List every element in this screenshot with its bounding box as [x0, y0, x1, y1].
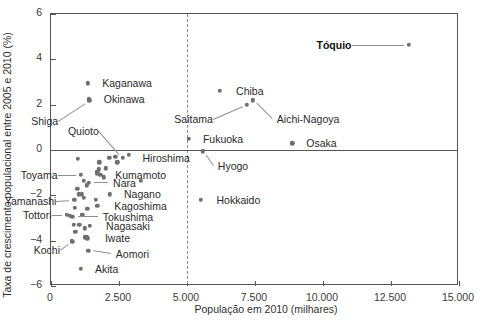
y-axis-tick-label: −4 — [2, 233, 42, 245]
plot-area: TóquioChibaKaganawaOkinawaShigaSaitamaAi… — [50, 13, 458, 285]
data-point — [97, 160, 101, 164]
data-point-label: Nagasaki — [106, 220, 150, 232]
y-axis-tick — [51, 286, 56, 287]
data-point — [115, 160, 119, 164]
data-point-label: Tottori — [23, 209, 52, 221]
label-leader-line — [206, 155, 214, 166]
data-point — [85, 207, 89, 211]
label-leader-line — [352, 45, 404, 46]
y-axis-title-text: Taxa de crescimento populacional entre 2… — [1, 32, 13, 298]
data-point — [73, 206, 77, 210]
x-axis-tick-label: 12.500 — [374, 291, 406, 303]
reference-line-zero — [51, 150, 457, 151]
data-point-label: Fukuoka — [203, 133, 243, 145]
data-point — [87, 98, 91, 102]
y-axis-tick-label: −2 — [2, 187, 42, 199]
y-axis-tick — [51, 14, 56, 15]
data-point — [78, 267, 82, 271]
x-axis-title: População em 2010 (milhares) — [0, 303, 486, 315]
label-leader-line — [52, 215, 62, 216]
label-leader-line — [213, 107, 243, 121]
data-point-label: Iwate — [105, 232, 130, 244]
data-point-label: Osaka — [306, 137, 336, 149]
data-point-label: Nara — [113, 177, 136, 189]
x-axis-tick-label: 5.000 — [173, 291, 199, 303]
reference-line-vertical — [187, 14, 188, 284]
y-axis-tick-label: 6 — [2, 6, 42, 18]
data-point-label: Tóquio — [317, 39, 352, 51]
label-leader-line — [256, 103, 272, 119]
x-axis-tick-label: 2.500 — [105, 291, 131, 303]
x-axis-tick — [51, 281, 52, 286]
x-axis-tick-label: 7.500 — [241, 291, 267, 303]
data-point-label: Saitama — [174, 113, 213, 125]
data-point-label: Akita — [95, 263, 118, 275]
data-point-label: Hiroshima — [142, 152, 189, 164]
data-point — [70, 215, 74, 219]
data-point — [75, 186, 79, 190]
x-axis-tick — [323, 281, 324, 286]
label-leader-line — [58, 175, 76, 176]
data-point — [290, 141, 294, 145]
y-axis-tick — [51, 59, 56, 60]
y-axis-tick — [51, 105, 56, 106]
data-point — [77, 223, 81, 227]
data-point — [82, 195, 86, 199]
label-leader-line — [60, 244, 68, 251]
x-axis-tick — [391, 281, 392, 286]
data-point-label: Shiga — [31, 115, 58, 127]
data-point-label: Aichi-Nagoya — [277, 113, 339, 125]
data-point-label: Quioto — [68, 125, 99, 137]
data-point — [218, 89, 222, 93]
data-point — [102, 175, 106, 179]
data-point-label: Kochi — [34, 244, 60, 256]
y-axis-tick — [51, 241, 56, 242]
x-axis-tick-label: 15.000 — [442, 291, 474, 303]
data-point — [199, 198, 203, 202]
y-axis-tick-label: 0 — [2, 142, 42, 154]
data-point-label: Okinawa — [104, 93, 145, 105]
data-point — [72, 198, 76, 202]
data-point — [201, 149, 205, 153]
data-point — [107, 192, 111, 196]
data-point-label: Kaganawa — [102, 77, 152, 89]
data-point — [107, 156, 111, 160]
data-point — [187, 136, 191, 140]
data-point — [250, 98, 254, 102]
data-point — [87, 181, 91, 185]
data-point-label: Hokkaido — [216, 194, 260, 206]
data-point — [79, 173, 83, 177]
data-point — [86, 249, 90, 253]
data-point — [113, 155, 117, 159]
data-point — [95, 203, 99, 207]
data-point — [93, 198, 97, 202]
label-leader-line — [93, 251, 111, 255]
x-axis-tick — [255, 281, 256, 286]
label-leader-line — [58, 103, 86, 122]
y-axis-tick-label: 4 — [2, 51, 42, 63]
data-point — [86, 81, 90, 85]
x-axis-tick — [459, 281, 460, 286]
x-axis-tick — [119, 281, 120, 286]
y-axis-tick-label: −6 — [2, 278, 42, 290]
chart-figure: Taxa de crescimento populacional entre 2… — [0, 0, 486, 330]
data-point — [73, 229, 77, 233]
x-axis-tick-label: 10.000 — [306, 291, 338, 303]
x-axis-tick-label: 0 — [47, 291, 53, 303]
data-point — [85, 236, 89, 240]
label-leader-line — [56, 200, 69, 202]
data-point-label: Hyogo — [218, 160, 248, 172]
data-point — [76, 157, 80, 161]
label-leader-line — [94, 182, 108, 183]
data-point-label: Aomori — [116, 248, 149, 260]
data-point-label: Kagoshima — [114, 200, 167, 212]
data-point-label: Chiba — [236, 85, 263, 97]
y-axis-tick-label: 2 — [2, 97, 42, 109]
label-leader-line — [77, 216, 97, 217]
data-point — [245, 102, 249, 106]
data-point-label: Nagano — [124, 188, 161, 200]
data-point — [120, 156, 124, 160]
data-point-label: Toyama — [21, 169, 58, 181]
data-point — [407, 42, 411, 46]
x-axis-title-text: População em 2010 (milhares) — [195, 303, 338, 315]
